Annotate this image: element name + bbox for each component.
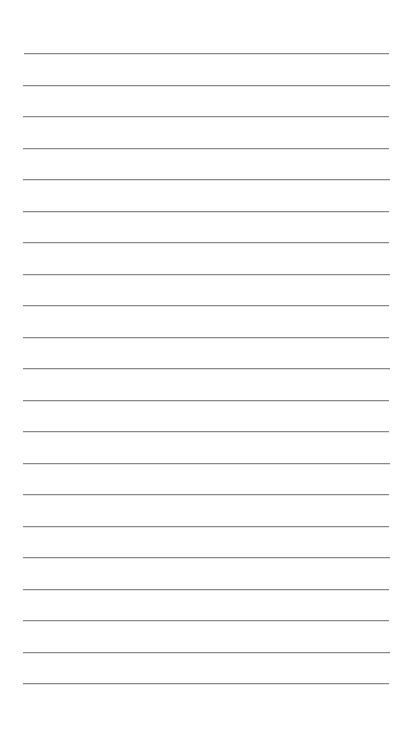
ruled-line-1	[24, 53, 389, 54]
ruled-line-14	[23, 463, 390, 464]
ruled-line-11	[23, 368, 390, 369]
ruled-line-9	[23, 305, 389, 306]
ruled-line-16	[23, 526, 389, 527]
ruled-line-8	[23, 274, 390, 275]
ruled-line-21	[23, 683, 389, 684]
ruled-line-13	[23, 431, 389, 432]
ruled-line-7	[23, 242, 389, 243]
ruled-line-3	[23, 116, 389, 117]
ruled-line-6	[23, 211, 389, 212]
writing-area[interactable]	[0, 0, 409, 735]
ruled-line-4	[23, 148, 389, 149]
ruled-line-15	[23, 494, 389, 495]
ruled-line-20	[23, 652, 390, 653]
ruled-line-12	[23, 400, 389, 401]
ruled-line-18	[23, 589, 389, 590]
lined-paper-page	[0, 0, 409, 735]
ruled-line-17	[23, 557, 390, 558]
ruled-line-5	[23, 179, 390, 180]
ruled-line-10	[23, 337, 389, 338]
ruled-line-19	[23, 620, 389, 621]
ruled-line-2	[23, 85, 390, 86]
